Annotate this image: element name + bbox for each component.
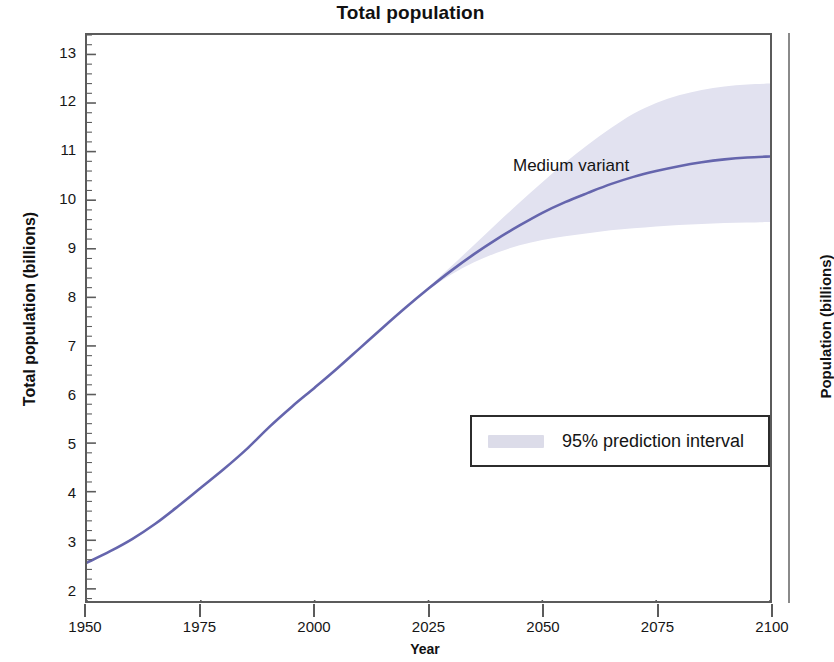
y-tick-label: 8 [36,289,76,304]
plot-svg [87,35,770,601]
y-tick-label: 6 [36,387,76,402]
x-tick-label: 2000 [279,618,349,635]
y-tick-label: 4 [36,485,76,500]
legend-swatch-prediction-interval [488,435,544,448]
x-tick-label: 2025 [394,618,464,635]
y-tick-label: 5 [36,436,76,451]
y-tick-label: 7 [36,338,76,353]
x-axis-tick-labels: 1950197520002025205020752100 [0,618,821,642]
legend-label-prediction-interval: 95% prediction interval [562,431,744,452]
y-tick-label: 12 [36,93,76,108]
y-tick-label: 13 [36,45,76,60]
x-tick-label: 1975 [165,618,235,635]
x-tick-mark [313,604,315,617]
y-tick-label: 11 [36,142,76,157]
x-tick-mark [771,604,773,617]
y-tick-label: 9 [36,240,76,255]
page-title: Total population [0,2,821,24]
y-tick-label: 2 [36,583,76,598]
prediction-interval-band [406,84,770,308]
x-tick-label: 2100 [737,618,807,635]
x-tick-label: 2075 [623,618,693,635]
y-tick-label: 3 [36,534,76,549]
band-area-95%-prediction-interval [406,84,770,308]
x-axis-title: Year [340,641,510,657]
legend: 95% prediction interval [470,415,770,467]
x-tick-mark [199,604,201,617]
x-tick-label: 1950 [50,618,120,635]
right-panel-frame-edge [788,33,790,603]
x-tick-mark [657,604,659,617]
x-tick-mark [84,604,86,617]
x-tick-mark [542,604,544,617]
y-axis-tick-labels: 1312111098765432 [28,0,76,662]
medium-variant-annotation: Medium variant [513,156,629,176]
x-tick-mark [428,604,430,617]
plot-area [85,33,772,603]
x-tick-label: 2050 [508,618,578,635]
y-tick-label: 10 [36,191,76,206]
right-panel-axis-title: Population (billions) [817,182,834,472]
